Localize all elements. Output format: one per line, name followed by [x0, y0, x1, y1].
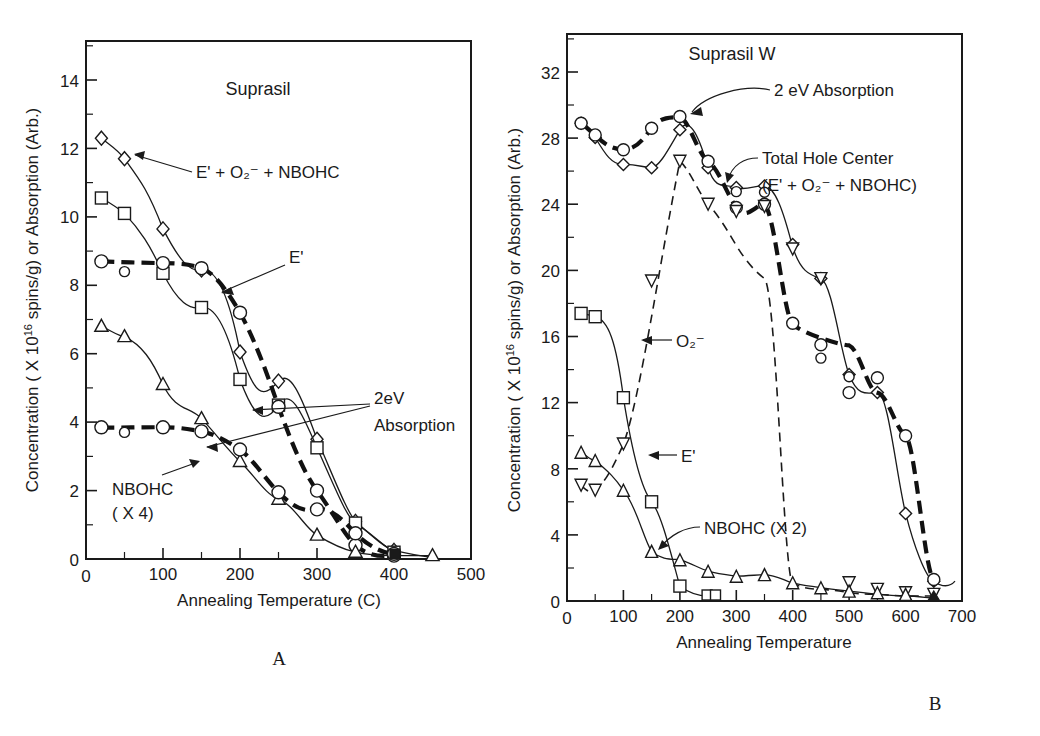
annotation-a-absorption: 2eV Absorption [206, 389, 455, 452]
y-axis-title-a-sup: 16 [22, 324, 34, 336]
x-tick-label-a-500: 500 [457, 565, 485, 584]
y-tick-label-b-16: 16 [541, 328, 560, 347]
annotation-a-absorption-label-1: 2eV [374, 389, 405, 408]
y-axis-title-b-tail: spins/g) or Absorption (Arb.) [505, 128, 524, 344]
annotation-b-absorption: 2 eV Absorption [690, 81, 894, 116]
y-axis-b: 0 4 8 12 16 20 24 28 32 [541, 39, 578, 612]
annotation-a-eprime: E' [221, 248, 304, 295]
annotation-a-nbohc: NBOHC ( X 4) [112, 459, 200, 523]
annotation-b-total-label-2: (E' + O₂⁻ + NBOHC) [762, 176, 917, 195]
x-axis-a: 0 100 200 300 400 500 [81, 548, 485, 586]
y-tick-label-b-12: 12 [541, 394, 560, 413]
panel-b: 0 4 8 12 16 20 24 28 32 0 [500, 0, 1040, 736]
panel-letter-b: B [929, 693, 942, 714]
panel-a-svg: 0 2 4 6 8 10 12 14 0 100 200 300 40 [0, 0, 500, 700]
x-tick-label-b-0: 0 [562, 609, 571, 628]
y-axis-a: 0 2 4 6 8 10 12 14 [60, 46, 97, 570]
y-tick-label-b-0: 0 [551, 593, 560, 612]
panel-b-svg: 0 4 8 12 16 20 24 28 32 0 [500, 0, 1040, 736]
y-axis-title-a-head: Concentration ( X 10 [23, 336, 42, 492]
x-axis-title-a: Annealing Temperature (C) [177, 591, 381, 610]
annotation-a-total: E' + O₂⁻ + NBOHC [134, 151, 340, 182]
x-tick-label-a-0: 0 [81, 567, 90, 586]
x-tick-label-b-600: 600 [891, 607, 919, 626]
y-axis-title-b: Concentration ( X 1016 spins/g) or Absor… [504, 128, 524, 513]
annotation-b-o2-label: O₂⁻ [676, 332, 705, 351]
svg-text:Concentration ( X 1016 spins/g: Concentration ( X 1016 spins/g) or Absor… [504, 128, 524, 513]
y-tick-label-a-12: 12 [60, 140, 79, 159]
annotation-b-eprime-label: E' [681, 447, 696, 466]
y-tick-label-a-14: 14 [60, 72, 79, 91]
y-tick-label-a-10: 10 [60, 208, 79, 227]
annotation-a-nbohc-label-1: NBOHC [112, 480, 173, 499]
y-axis-title-a-tail: spins/g) or Absorption (Arb.) [23, 108, 42, 324]
x-tick-label-b-500: 500 [835, 607, 863, 626]
x-tick-label-a-200: 200 [226, 565, 254, 584]
x-tick-label-a-400: 400 [380, 565, 408, 584]
y-tick-label-a-2: 2 [70, 482, 79, 501]
x-tick-label-a-300: 300 [303, 565, 331, 584]
panel-a: 0 2 4 6 8 10 12 14 0 100 200 300 40 [0, 0, 500, 700]
annotation-b-o2: O₂⁻ [641, 332, 705, 351]
svg-text:Concentration ( X 1016 spins/g: Concentration ( X 1016 spins/g) or Absor… [22, 108, 42, 493]
y-axis-title-b-sup: 16 [504, 344, 516, 356]
annotation-a-nbohc-label-2: ( X 4) [112, 504, 154, 523]
x-tick-label-b-400: 400 [779, 607, 807, 626]
plot-title-b: Suprasil W [688, 44, 775, 64]
annotation-b-eprime: E' [648, 447, 696, 466]
annotation-b-total: Total Hole Center (E' + O₂⁻ + NBOHC) [725, 149, 917, 195]
annotation-b-nbohc: NBOHC (X 2) [658, 519, 807, 550]
y-tick-label-b-4: 4 [551, 527, 560, 546]
series-a-nbohc [95, 319, 439, 560]
y-axis-title-a: Concentration ( X 1016 spins/g) or Absor… [22, 108, 42, 493]
annotation-b-nbohc-label: NBOHC (X 2) [704, 519, 807, 538]
y-tick-label-a-4: 4 [70, 413, 79, 432]
y-tick-label-b-20: 20 [541, 262, 560, 281]
annotation-a-total-label: E' + O₂⁻ + NBOHC [196, 163, 340, 182]
x-tick-label-b-300: 300 [722, 607, 750, 626]
annotation-b-total-label-1: Total Hole Center [762, 149, 894, 168]
series-b-extra-points [731, 187, 854, 382]
x-axis-title-b: Annealing Temperature [676, 633, 851, 652]
annotation-a-absorption-label-2: Absorption [374, 416, 455, 435]
annotation-b-absorption-label: 2 eV Absorption [774, 81, 894, 100]
annotation-a-eprime-label: E' [289, 248, 304, 267]
y-tick-label-a-6: 6 [70, 345, 79, 364]
y-tick-label-b-24: 24 [541, 196, 560, 215]
y-tick-label-b-28: 28 [541, 130, 560, 149]
y-axis-title-b-head: Concentration ( X 10 [505, 356, 524, 512]
x-tick-label-b-200: 200 [666, 607, 694, 626]
x-tick-label-a-100: 100 [149, 565, 177, 584]
x-tick-label-b-700: 700 [948, 607, 976, 626]
y-tick-label-b-8: 8 [551, 461, 560, 480]
panel-letter-a: A [272, 648, 286, 669]
x-tick-label-b-100: 100 [609, 607, 637, 626]
y-tick-label-b-32: 32 [541, 64, 560, 83]
y-tick-label-a-8: 8 [70, 276, 79, 295]
plot-title-a: Suprasil [225, 79, 290, 99]
y-tick-label-a-0: 0 [70, 551, 79, 570]
